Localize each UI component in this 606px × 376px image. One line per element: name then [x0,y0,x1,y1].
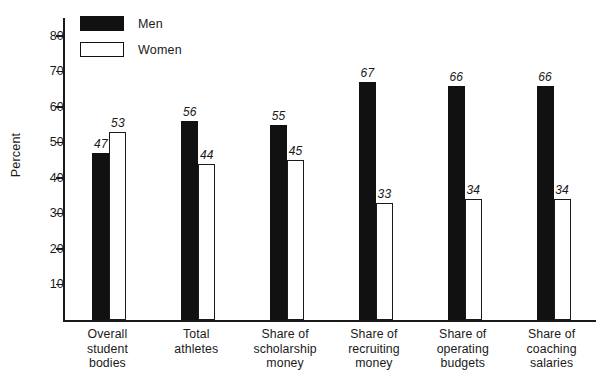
bar-men: 55 [270,125,287,320]
x-axis-category-label: Share ofoperatingbudgets [418,327,507,371]
category-label-line: bodies [63,356,152,371]
bar-group: 6634 [537,18,571,320]
bar-women: 53 [109,132,126,320]
category-label-line: scholarship [241,342,330,357]
bar-men: 66 [537,86,554,320]
x-axis-category-label: Overallstudentbodies [63,327,152,371]
bar-value-label: 67 [361,66,375,80]
bar-value-label: 66 [538,70,552,84]
category-label-line: Share of [330,327,419,342]
bar-women: 34 [465,199,482,320]
bar-value-label: 34 [466,183,480,197]
bar-men: 47 [92,153,109,320]
category-label-line: Share of [241,327,330,342]
plot-area: 475356445545673366346634 [63,18,596,320]
bar-group: 6634 [448,18,482,320]
bar-men: 56 [181,121,198,320]
x-axis-category-label: Share ofscholarshipmoney [241,327,330,371]
bar-group: 5545 [270,18,304,320]
bar-women: 45 [287,160,304,320]
category-label-line: salaries [507,356,596,371]
category-label-line: recruiting [330,342,419,357]
bar-value-label: 66 [449,70,463,84]
bar-group: 4753 [92,18,126,320]
bar-value-label: 56 [183,105,197,119]
bar-group: 6733 [359,18,393,320]
category-label-line: Share of [418,327,507,342]
bar-men: 66 [448,86,465,320]
category-label-line: athletes [152,342,241,357]
category-label-line: coaching [507,342,596,357]
y-axis-title: Percent [9,115,23,195]
category-label-line: budgets [418,356,507,371]
bar-women: 33 [376,203,393,320]
bar-women: 34 [554,199,571,320]
x-axis-line [63,320,596,322]
x-axis-category-label: Share ofrecruitingmoney [330,327,419,371]
bar-men: 67 [359,82,376,320]
bar-value-label: 34 [555,183,569,197]
bar-value-label: 44 [200,148,214,162]
category-label-line: Total [152,327,241,342]
bar-women: 44 [198,164,215,320]
bar-value-label: 47 [94,137,108,151]
bar-chart: Percent 8070605040302010 Men Women 47535… [0,0,606,376]
category-label-line: operating [418,342,507,357]
category-label-line: student [63,342,152,357]
category-label-line: Share of [507,327,596,342]
bar-group: 5644 [181,18,215,320]
category-label-line: money [241,356,330,371]
x-axis-category-label: Share ofcoachingsalaries [507,327,596,371]
bar-value-label: 45 [289,144,303,158]
x-axis-category-label: Totalathletes [152,327,241,356]
bar-value-label: 33 [378,187,392,201]
bar-value-label: 53 [111,116,125,130]
category-label-line: Overall [63,327,152,342]
category-label-line: money [330,356,419,371]
bar-value-label: 55 [272,109,286,123]
